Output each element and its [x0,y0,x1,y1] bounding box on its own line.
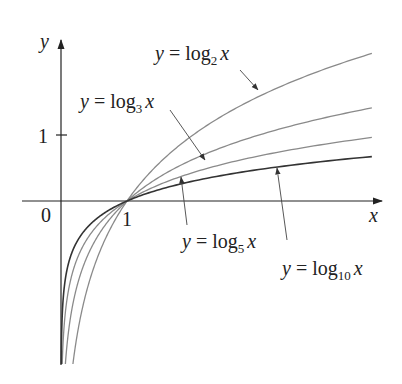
log2-label: y = log2x [153,42,229,68]
x-tick-label-1: 1 [122,208,132,230]
log10-arrow [277,168,287,240]
y-axis-label: y [38,30,49,53]
log2-arrow [240,70,258,90]
x-axis-label: x [368,204,378,226]
log10-label: y = log10x [280,257,363,283]
log5-label: y = log5x [180,230,256,256]
log3-label: y = log3x [78,90,154,116]
log3-arrow [170,110,205,160]
y-tick-label-1: 1 [38,125,48,147]
origin-label: 0 [41,204,51,226]
log-functions-plot: y x 0 1 1 y = log2x y = log3x y = log5x … [0,0,402,384]
